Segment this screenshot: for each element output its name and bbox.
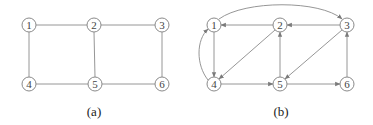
edge-b-2-4 [219, 30, 275, 79]
svg-text:4: 4 [211, 78, 217, 90]
caption-a: (a) [87, 104, 101, 119]
panel-b-directed-graph: 1 2 3 4 5 6 (b) [199, 5, 354, 119]
node-b-2: 2 [273, 18, 287, 32]
node-b-4: 4 [207, 77, 221, 91]
node-a-4: 4 [22, 77, 36, 91]
svg-text:3: 3 [344, 19, 350, 31]
node-a-6: 6 [155, 77, 169, 91]
svg-text:3: 3 [159, 19, 165, 31]
caption-b: (b) [273, 104, 288, 119]
edge-b-3-5 [285, 30, 342, 79]
svg-text:5: 5 [277, 78, 283, 90]
edge-b-1-3 [219, 5, 342, 19]
node-b-5: 5 [273, 77, 287, 91]
node-a-3: 3 [155, 18, 169, 32]
edge-a-2-5 [94, 32, 95, 77]
node-b-3: 3 [340, 18, 354, 32]
svg-text:4: 4 [26, 78, 32, 90]
edge-b-4-1 [199, 29, 208, 80]
svg-text:2: 2 [277, 19, 283, 31]
node-a-2: 2 [87, 18, 101, 32]
svg-text:6: 6 [344, 78, 350, 90]
svg-text:1: 1 [211, 19, 217, 31]
panel-a-undirected-graph: 1 2 3 4 5 6 (a) [22, 18, 169, 119]
svg-text:1: 1 [26, 19, 32, 31]
node-b-1: 1 [207, 18, 221, 32]
graph-figure: 1 2 3 4 5 6 (a) [0, 0, 373, 125]
node-a-5: 5 [88, 77, 102, 91]
svg-text:5: 5 [92, 78, 98, 90]
svg-text:6: 6 [159, 78, 165, 90]
node-a-1: 1 [22, 18, 36, 32]
svg-text:2: 2 [91, 19, 97, 31]
node-b-6: 6 [340, 77, 354, 91]
